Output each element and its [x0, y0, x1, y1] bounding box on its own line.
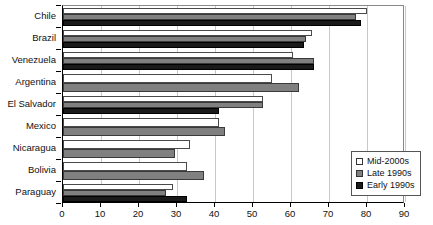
x-axis-tick-label: 60 [285, 208, 296, 219]
bar [63, 64, 314, 70]
value-axis: 0102030405060708090 [62, 203, 404, 225]
x-axis-tick-label: 30 [171, 208, 182, 219]
x-axis-tick-label: 40 [209, 208, 220, 219]
category-tick [56, 137, 61, 138]
chart-legend: Mid-2000sLate 1990sEarly 1990s [351, 151, 421, 196]
x-axis-tick-label: 80 [361, 208, 372, 219]
x-axis-tick [366, 203, 367, 207]
bar [63, 74, 272, 83]
legend-label: Mid-2000s [367, 157, 409, 166]
category-label: Bolivia [0, 164, 56, 175]
gray-square-icon [356, 170, 363, 177]
category-tick [56, 203, 61, 204]
category-label: Nicaragua [0, 142, 56, 153]
x-axis-tick-label: 20 [133, 208, 144, 219]
category-tick [56, 115, 61, 116]
x-axis-tick [252, 203, 253, 207]
bar [63, 42, 304, 48]
x-axis-tick [62, 203, 63, 207]
black-square-icon [356, 182, 363, 189]
bar [63, 149, 175, 158]
category-label: Paraguay [0, 186, 56, 197]
bar [63, 171, 204, 180]
category-label: Argentina [0, 76, 56, 87]
bar-chart: ChileBrazilVenezuelaArgentinaEl Salvador… [0, 0, 433, 225]
x-axis-tick-label: 0 [59, 208, 64, 219]
x-axis-tick-label: 90 [399, 208, 410, 219]
bar [63, 127, 225, 136]
legend-item: Early 1990s [356, 180, 415, 191]
bar [63, 20, 361, 26]
bar [63, 108, 219, 114]
x-axis-tick [176, 203, 177, 207]
bar [63, 140, 190, 149]
x-axis-tick [138, 203, 139, 207]
category-tick [56, 71, 61, 72]
x-axis-tick-label: 50 [247, 208, 258, 219]
x-axis-tick [214, 203, 215, 207]
bar [63, 83, 299, 92]
bar [63, 162, 187, 171]
category-tick [56, 181, 61, 182]
x-axis-tick-label: 70 [323, 208, 334, 219]
category-label: Brazil [0, 32, 56, 43]
category-label: Chile [0, 10, 56, 21]
x-axis-tick [290, 203, 291, 207]
legend-label: Late 1990s [367, 169, 412, 178]
category-tick [56, 159, 61, 160]
category-axis: ChileBrazilVenezuelaArgentinaEl Salvador… [0, 5, 62, 203]
legend-item: Late 1990s [356, 168, 415, 179]
legend-label: Early 1990s [367, 181, 415, 190]
legend-item: Mid-2000s [356, 156, 415, 167]
category-tick [56, 49, 61, 50]
gridline [329, 6, 330, 202]
x-axis-tick [100, 203, 101, 207]
white-square-icon [356, 158, 363, 165]
bar [63, 118, 219, 127]
category-tick [56, 5, 61, 6]
x-axis-tick-label: 10 [95, 208, 106, 219]
category-tick [56, 27, 61, 28]
category-tick [56, 93, 61, 94]
x-axis-tick [404, 203, 405, 207]
category-label: Mexico [0, 120, 56, 131]
x-axis-tick [328, 203, 329, 207]
category-label: Venezuela [0, 54, 56, 65]
category-label: El Salvador [0, 98, 56, 109]
bar [63, 196, 187, 202]
